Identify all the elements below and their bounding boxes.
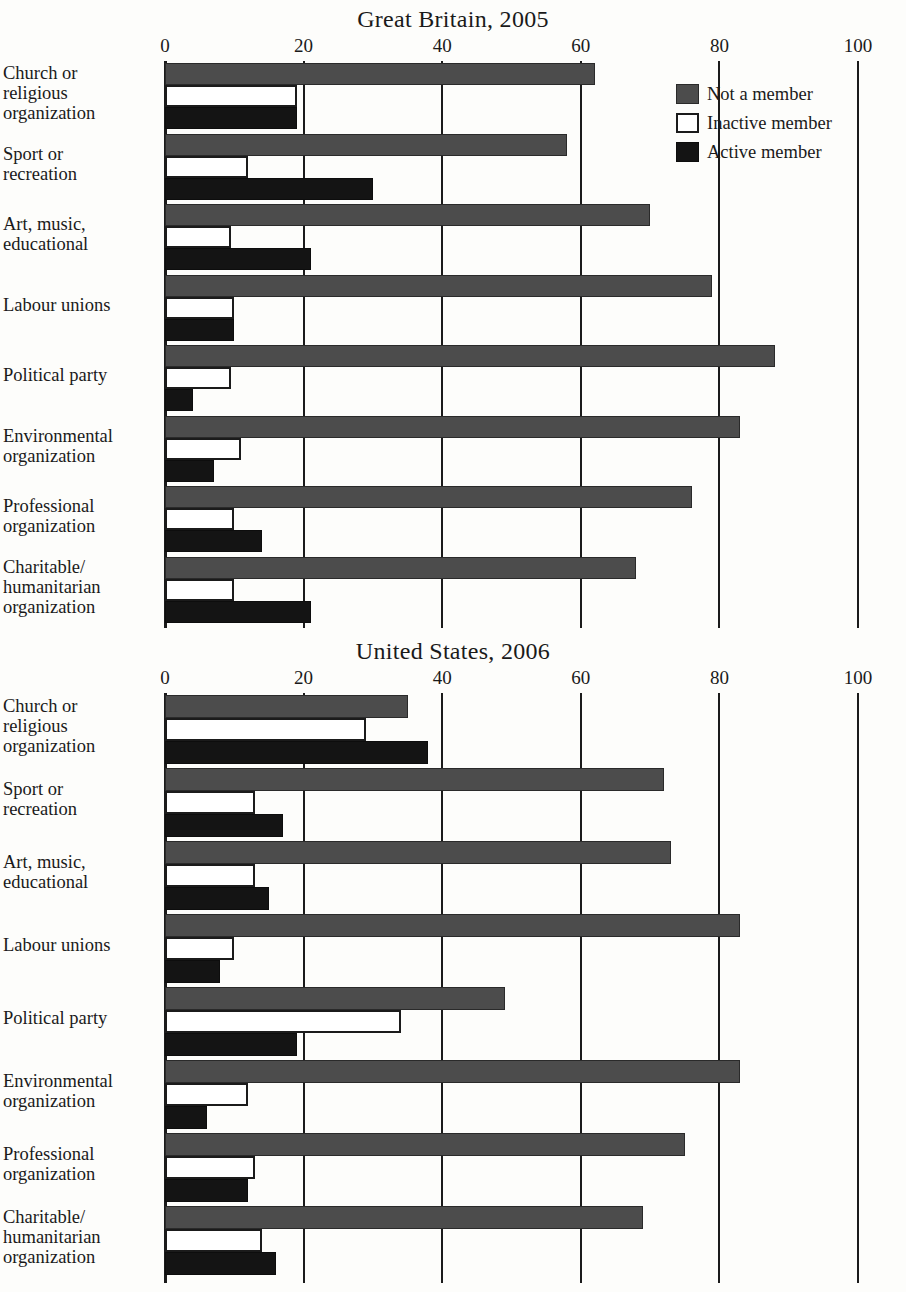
bar-not	[165, 987, 505, 1010]
bar-inactive	[165, 508, 234, 530]
bar-active	[165, 741, 428, 764]
chart-panel-united-states: United States, 2006 0 20 40 60 80 100 Ch…	[0, 632, 906, 1292]
x-tick-20: 20	[294, 667, 313, 689]
category-label: Church or religious organization	[3, 696, 153, 756]
bar-active	[165, 1106, 207, 1129]
bar-active	[165, 460, 214, 482]
legend-item-active-member: Active member	[676, 142, 891, 162]
x-tick-100: 100	[844, 667, 873, 689]
category-label: Environmental organization	[3, 426, 153, 466]
category-label: Political party	[3, 365, 153, 385]
bar-group: Environmental organization	[165, 1058, 858, 1131]
bar-active	[165, 107, 297, 129]
bar-inactive	[165, 438, 241, 460]
bar-not	[165, 841, 671, 864]
bar-group: Political party	[165, 985, 858, 1058]
bar-active	[165, 814, 283, 837]
x-tick-100: 100	[844, 35, 873, 57]
x-tick-0: 0	[160, 667, 170, 689]
bar-not	[165, 275, 712, 297]
bar-inactive	[165, 718, 366, 741]
bar-not	[165, 345, 775, 367]
legend-swatch-active-member	[676, 142, 699, 162]
bar-group: Political party	[165, 343, 858, 414]
bar-group: Art, music, educational	[165, 202, 858, 273]
x-tick-60: 60	[571, 667, 590, 689]
category-label: Church or religious organization	[3, 63, 153, 123]
bar-inactive	[165, 226, 231, 248]
bar-inactive	[165, 864, 255, 887]
bar-not	[165, 695, 408, 718]
bar-inactive	[165, 1083, 248, 1106]
category-label: Professional organization	[3, 1144, 153, 1184]
bar-group: Labour unions	[165, 273, 858, 344]
plot-area-us: Church or religious organizationSport or…	[165, 693, 858, 1283]
bar-not	[165, 416, 740, 438]
category-label: Labour unions	[3, 935, 153, 955]
legend-label-active-member: Active member	[707, 142, 822, 162]
legend-item-inactive-member: Inactive member	[676, 113, 891, 133]
bar-not	[165, 1133, 685, 1156]
x-tick-40: 40	[433, 667, 452, 689]
legend-gb: Not a member Inactive member Active memb…	[676, 84, 891, 171]
category-label: Sport or recreation	[3, 144, 153, 184]
bar-inactive	[165, 579, 234, 601]
category-label: Charitable/ humanitarian organization	[3, 557, 153, 617]
bar-active	[165, 178, 373, 200]
bar-inactive	[165, 367, 231, 389]
x-tick-80: 80	[710, 667, 729, 689]
x-axis-tick-labels-us: 0 20 40 60 80 100	[165, 667, 858, 693]
bar-not	[165, 1206, 643, 1229]
legend-label-inactive-member: Inactive member	[707, 113, 832, 133]
bar-group: Charitable/ humanitarian organization	[165, 555, 858, 626]
bar-not	[165, 486, 692, 508]
legend-swatch-inactive-member	[676, 113, 699, 133]
bar-active	[165, 1179, 248, 1202]
bar-inactive	[165, 156, 248, 178]
x-tick-20: 20	[294, 35, 313, 57]
page-title-great-britain: Great Britain, 2005	[0, 0, 906, 35]
category-label: Labour unions	[3, 295, 153, 315]
page-title-united-states: United States, 2006	[0, 632, 906, 667]
category-label: Art, music, educational	[3, 852, 153, 892]
bar-inactive	[165, 1010, 401, 1033]
bar-group: Sport or recreation	[165, 766, 858, 839]
bar-inactive	[165, 937, 234, 960]
legend-item-not-a-member: Not a member	[676, 84, 891, 104]
bar-active	[165, 601, 311, 623]
bar-active	[165, 530, 262, 552]
bar-active	[165, 319, 234, 341]
bar-group: Professional organization	[165, 1131, 858, 1204]
legend-label-not-a-member: Not a member	[707, 84, 813, 104]
bar-group: Professional organization	[165, 484, 858, 555]
bar-inactive	[165, 297, 234, 319]
bar-group: Art, music, educational	[165, 839, 858, 912]
bar-inactive	[165, 1229, 262, 1252]
bar-not	[165, 914, 740, 937]
category-label: Art, music, educational	[3, 214, 153, 254]
bar-not	[165, 204, 650, 226]
bar-not	[165, 63, 595, 85]
category-label: Environmental organization	[3, 1071, 153, 1111]
bar-group: Labour unions	[165, 912, 858, 985]
bar-active	[165, 887, 269, 910]
category-label: Sport or recreation	[3, 779, 153, 819]
bar-active	[165, 1033, 297, 1056]
bar-not	[165, 134, 567, 156]
bar-not	[165, 768, 664, 791]
bar-group: Charitable/ humanitarian organization	[165, 1204, 858, 1277]
bar-inactive	[165, 1156, 255, 1179]
chart-panel-great-britain: Great Britain, 2005 0 20 40 60 80 100 Ch…	[0, 0, 906, 632]
bar-inactive	[165, 791, 255, 814]
bar-active	[165, 389, 193, 411]
x-axis-tick-labels-gb: 0 20 40 60 80 100	[165, 35, 858, 61]
x-tick-40: 40	[433, 35, 452, 57]
bar-active	[165, 1252, 276, 1275]
bar-inactive	[165, 85, 297, 107]
x-tick-0: 0	[160, 35, 170, 57]
bar-not	[165, 1060, 740, 1083]
bar-not	[165, 557, 636, 579]
category-label: Charitable/ humanitarian organization	[3, 1207, 153, 1267]
x-tick-60: 60	[571, 35, 590, 57]
bar-group: Environmental organization	[165, 414, 858, 485]
